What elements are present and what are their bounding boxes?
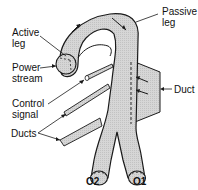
control-signal-tube xyxy=(86,64,113,80)
loop-inner xyxy=(78,45,111,58)
label-output-1: O1 xyxy=(133,176,146,187)
label-power-stream: Power stream xyxy=(12,62,43,84)
leader-active-leg xyxy=(40,36,66,56)
label-output-2: O2 xyxy=(86,176,99,187)
duct-tube-lower xyxy=(60,118,102,146)
device-body xyxy=(60,14,145,178)
leader-control-signal xyxy=(48,80,84,104)
label-active-leg: Active leg xyxy=(12,27,39,49)
label-passive-leg: Passive leg xyxy=(162,6,197,28)
label-control-signal: Control signal xyxy=(12,98,44,120)
leader-passive-leg xyxy=(136,14,158,22)
label-duct: Duct xyxy=(174,84,195,95)
label-ducts: Ducts xyxy=(11,128,37,139)
active-leg-end xyxy=(56,54,76,74)
